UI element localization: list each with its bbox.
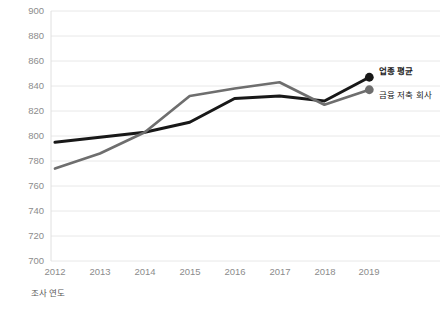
series-layer bbox=[55, 73, 374, 169]
x-axis-title: 조사 연도 bbox=[31, 286, 65, 298]
series-line bbox=[55, 82, 369, 168]
x-tick-label: 2014 bbox=[123, 266, 167, 277]
series-line bbox=[55, 77, 369, 142]
x-tick-label: 2018 bbox=[303, 266, 347, 277]
legend-label-savings-company: 금융 저축 회사 bbox=[379, 88, 432, 100]
x-tick-label: 2015 bbox=[168, 266, 212, 277]
x-tick-label: 2017 bbox=[258, 266, 302, 277]
line-chart: 만족도 점수 900 880 860 840 820 800 780 760 7… bbox=[0, 0, 447, 313]
legend-label-industry-average: 업종 평균 bbox=[379, 64, 413, 76]
x-tick-label: 2012 bbox=[33, 266, 77, 277]
x-tick-label: 2019 bbox=[347, 266, 391, 277]
x-tick-label: 2013 bbox=[78, 266, 122, 277]
series-end-marker bbox=[365, 73, 374, 82]
series-end-marker bbox=[365, 85, 374, 94]
x-tick-label: 2016 bbox=[213, 266, 257, 277]
